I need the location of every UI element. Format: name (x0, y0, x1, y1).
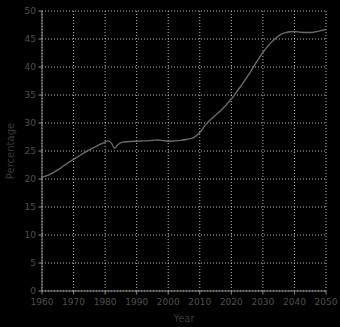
x-axis-title: Year (172, 313, 195, 324)
y-tick-label: 20 (25, 174, 37, 184)
x-tick-label: 2050 (315, 297, 338, 307)
chart-background (0, 0, 340, 327)
y-tick-label: 0 (30, 286, 36, 296)
y-tick-label: 10 (25, 230, 37, 240)
y-tick-label: 35 (25, 90, 36, 100)
y-tick-label: 30 (25, 118, 37, 128)
x-tick-label: 2040 (283, 297, 306, 307)
line-chart: 05101520253035404550 1960197019801990200… (0, 0, 340, 327)
x-tick-label: 2010 (188, 297, 211, 307)
y-tick-label: 25 (25, 146, 36, 156)
y-tick-label: 5 (30, 258, 36, 268)
y-tick-label: 40 (25, 62, 37, 72)
x-tick-label: 2030 (251, 297, 274, 307)
y-tick-label: 50 (25, 6, 37, 16)
x-tick-label: 2020 (220, 297, 243, 307)
x-tick-label: 1960 (31, 297, 54, 307)
y-tick-label: 45 (25, 34, 36, 44)
chart-canvas: 05101520253035404550 1960197019801990200… (0, 0, 340, 327)
x-tick-label: 1990 (125, 297, 148, 307)
y-tick-label: 15 (25, 202, 36, 212)
x-tick-label: 1970 (62, 297, 85, 307)
x-tick-label: 2000 (157, 297, 180, 307)
y-axis-title: Percentage (5, 123, 16, 179)
x-tick-label: 1980 (94, 297, 117, 307)
